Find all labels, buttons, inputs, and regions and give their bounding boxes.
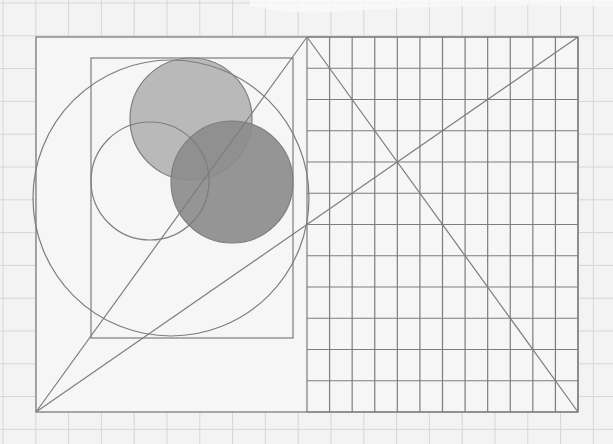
diagram-svg	[0, 0, 613, 444]
geometric-diagram	[0, 0, 613, 444]
paper-highlight-patch	[250, 0, 613, 13]
